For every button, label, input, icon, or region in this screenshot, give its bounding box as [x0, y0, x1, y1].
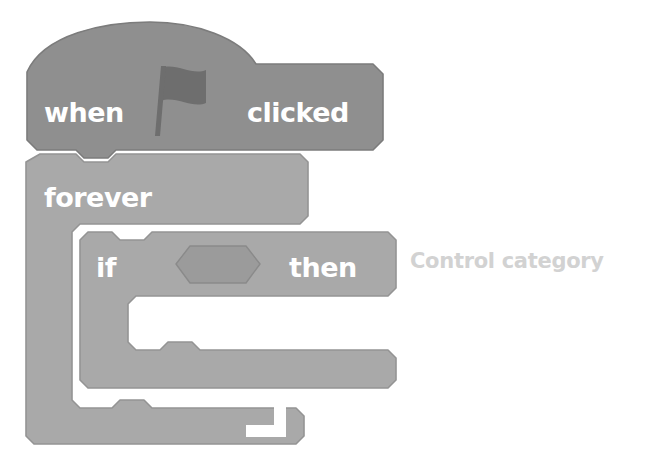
boolean-slot[interactable]: [176, 246, 260, 283]
control-category-annotation: Control category: [410, 249, 604, 273]
block-forever-label: forever: [44, 182, 153, 213]
block-clicked-label: clicked: [247, 97, 349, 128]
block-when-flag-clicked[interactable]: when clicked: [27, 22, 383, 158]
block-diagram-canvas: forever if then when clicked Control cat…: [0, 0, 670, 463]
scratch-blocks-illustration: forever if then when clicked: [0, 0, 670, 463]
block-when-label: when: [44, 97, 124, 128]
block-if-then[interactable]: if then: [80, 232, 396, 388]
block-then-label: then: [289, 252, 357, 283]
block-if-label: if: [96, 252, 117, 283]
block-forever[interactable]: forever: [26, 154, 308, 444]
